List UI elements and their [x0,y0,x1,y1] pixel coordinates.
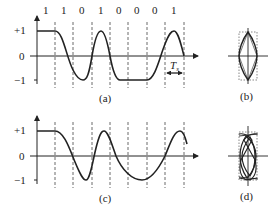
bit-label: 1 [98,4,104,16]
bit-label: 0 [79,4,85,16]
bit-label: 0 [116,4,122,16]
y-tick-plus-one: +1 [14,24,26,36]
panel-d-eye: (d) [228,126,268,203]
bit-label: 0 [134,4,140,16]
caption-a: (a) [99,92,112,105]
bit-label: 1 [171,4,177,16]
bit-label: 1 [43,4,49,16]
y-tick-zero: 0 [19,150,25,162]
bit-label: 1 [61,4,67,16]
caption-b: (b) [240,90,253,103]
y-tick-plus-one: +1 [14,124,26,136]
panel-c-waveform: +1 0 −1 (c) [14,116,198,205]
y-tick-zero: 0 [19,50,25,62]
panel-a-waveform: 1 1 0 1 0 0 0 1 +1 0 −1 Ts (a) [14,4,198,105]
y-tick-minus-one: −1 [14,174,26,186]
caption-d: (d) [240,190,253,203]
period-label: Ts [170,59,179,73]
eye-diagram-figure: 1 1 0 1 0 0 0 1 +1 0 −1 Ts (a) (b) [0,0,276,217]
y-tick-minus-one: −1 [14,74,26,86]
bit-boundaries [55,22,184,88]
panel-b-eye: (b) [228,28,268,103]
caption-c: (c) [99,192,112,205]
bit-label: 0 [152,4,158,16]
